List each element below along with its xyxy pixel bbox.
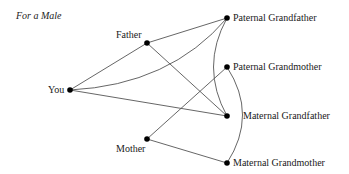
node-maternal-grandmother (224, 160, 230, 166)
label-mother: Mother (116, 143, 145, 155)
nodes (67, 15, 230, 166)
node-paternal-grandmother (224, 64, 230, 70)
node-father (144, 40, 150, 46)
node-paternal-grandfather (224, 15, 230, 21)
edge-you-paternal-grandfather (70, 18, 227, 90)
edges (70, 18, 243, 163)
label-you: You (48, 84, 64, 96)
edge-you-maternal-grandfather (70, 90, 227, 116)
node-maternal-grandfather (224, 113, 230, 119)
node-you (67, 87, 73, 93)
label-father: Father (116, 29, 142, 41)
edge-mother-paternal-grandmother (147, 67, 227, 139)
label-paternal-grandmother: Paternal Grandmother (233, 61, 322, 73)
label-maternal-grandmother: Maternal Grandmother (233, 157, 325, 169)
label-paternal-grandfather: Paternal Grandfather (233, 12, 317, 24)
edge-mother-maternal-grandmother (147, 139, 227, 163)
node-mother (144, 136, 150, 142)
label-maternal-grandfather: Maternal Grandfather (243, 110, 330, 122)
edge-you-father (70, 43, 147, 90)
